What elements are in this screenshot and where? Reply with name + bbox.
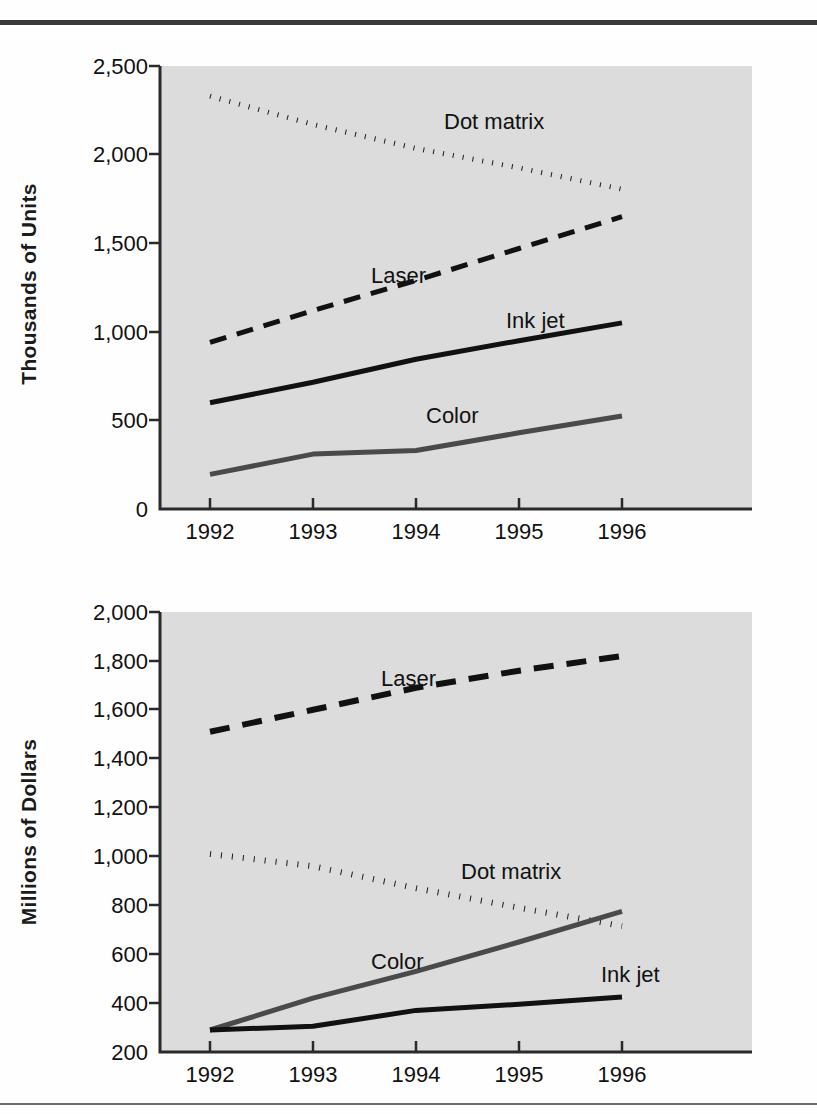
units-xtick-label-1995: 1995 xyxy=(495,519,544,544)
figure-page: Thousands of Units 2,500 2,000 1,500 1,0… xyxy=(0,0,817,1114)
dollars-xtick-label-1992: 1992 xyxy=(186,1062,235,1087)
dollars-ytick-label-1600: 1,600 xyxy=(93,697,148,722)
dollars-y-axis: 2,000 1,800 1,600 1,400 1,200 1,000 800 … xyxy=(93,600,160,1065)
dollars-ytick-label-1200: 1,200 xyxy=(93,795,148,820)
units-xtick-label-1992: 1992 xyxy=(186,519,235,544)
dollars-label-color: Color xyxy=(371,949,424,974)
units-ytick-label-1000: 1,000 xyxy=(93,320,148,345)
bottom-divider-rule xyxy=(0,1103,817,1105)
units-xtick-label-1994: 1994 xyxy=(392,519,441,544)
units-ytick-label-2000: 2,000 xyxy=(93,142,148,167)
dollars-ytick-label-200: 200 xyxy=(111,1040,148,1065)
units-label-dot-matrix: Dot matrix xyxy=(444,109,544,134)
dollars-y-axis-title: Millions of Dollars xyxy=(17,739,40,926)
units-label-ink-jet: Ink jet xyxy=(506,308,565,333)
chart-thousands-of-units: Thousands of Units 2,500 2,000 1,500 1,0… xyxy=(0,34,817,554)
dollars-ytick-label-800: 800 xyxy=(111,893,148,918)
units-y-axis: 2,500 2,000 1,500 1,000 500 0 xyxy=(93,54,160,522)
dollars-xtick-label-1996: 1996 xyxy=(598,1062,647,1087)
units-ytick-label-500: 500 xyxy=(111,408,148,433)
units-xtick-label-1993: 1993 xyxy=(289,519,338,544)
dollars-ytick-label-2000: 2,000 xyxy=(93,600,148,625)
units-label-laser: Laser xyxy=(371,263,426,288)
top-divider-rule xyxy=(0,20,817,25)
dollars-x-axis-labels: 1992 1993 1994 1995 1996 xyxy=(186,1062,647,1087)
units-ytick-label-1500: 1,500 xyxy=(93,231,148,256)
units-ytick-label-0: 0 xyxy=(136,497,148,522)
units-xtick-label-1996: 1996 xyxy=(598,519,647,544)
dollars-label-dot-matrix: Dot matrix xyxy=(461,859,561,884)
dollars-ytick-label-1000: 1,000 xyxy=(93,844,148,869)
dollars-xtick-label-1995: 1995 xyxy=(495,1062,544,1087)
dollars-xtick-label-1993: 1993 xyxy=(289,1062,338,1087)
dollars-ytick-label-1400: 1,400 xyxy=(93,746,148,771)
dollars-plot-area-background xyxy=(160,612,752,1052)
dollars-chart-svg: Millions of Dollars 2,000 1,800 1,600 1,… xyxy=(0,576,817,1096)
units-ytick-label-2500: 2,500 xyxy=(93,54,148,79)
dollars-ytick-label-600: 600 xyxy=(111,942,148,967)
dollars-label-ink-jet: Ink jet xyxy=(601,962,660,987)
units-x-axis-labels: 1992 1993 1994 1995 1996 xyxy=(186,519,647,544)
dollars-ytick-label-1800: 1,800 xyxy=(93,649,148,674)
units-chart-svg: Thousands of Units 2,500 2,000 1,500 1,0… xyxy=(0,34,817,554)
units-y-axis-title: Thousands of Units xyxy=(17,183,40,384)
dollars-label-laser: Laser xyxy=(381,666,436,691)
dollars-xtick-label-1994: 1994 xyxy=(392,1062,441,1087)
units-label-color: Color xyxy=(426,403,479,428)
chart-millions-of-dollars: Millions of Dollars 2,000 1,800 1,600 1,… xyxy=(0,576,817,1096)
dollars-ytick-label-400: 400 xyxy=(111,991,148,1016)
